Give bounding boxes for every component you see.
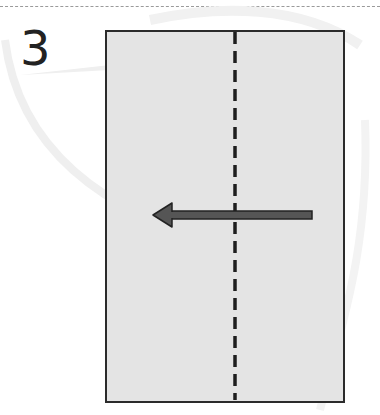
- fold-diagram: [0, 0, 380, 415]
- fold-direction-arrow-icon: [153, 203, 312, 227]
